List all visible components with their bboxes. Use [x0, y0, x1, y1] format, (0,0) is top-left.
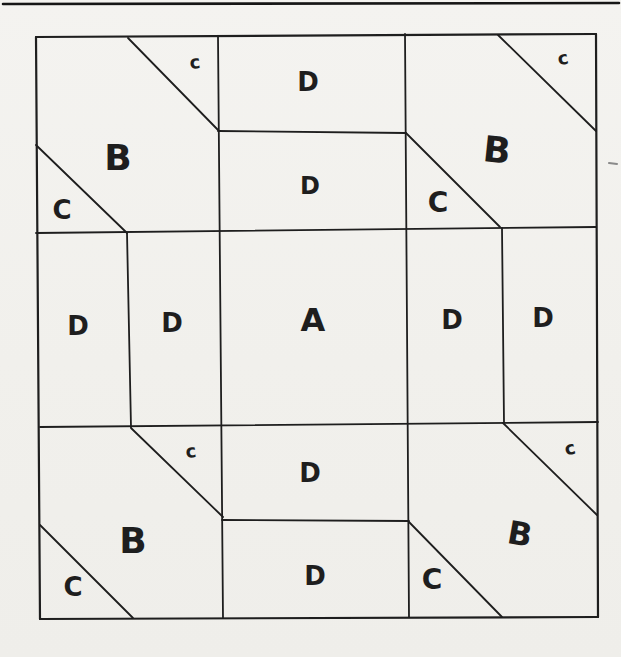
region-label-D: D [67, 311, 89, 341]
vertical-short-midleft [127, 233, 131, 427]
horizontal-top-center [218, 131, 406, 133]
tiling-diagram: cDcBDBCCDDADDcDcBBDCC [0, 0, 621, 657]
diagonal-bottomleft-small-c [131, 428, 223, 517]
outer-border-left [36, 37, 40, 619]
horizontal-bottom-center [222, 520, 409, 521]
region-label-D: D [299, 458, 321, 488]
region-label-D: D [304, 561, 326, 591]
region-label-C: C [63, 572, 82, 602]
region-label-B: B [119, 520, 146, 561]
region-label-D: D [441, 305, 463, 335]
diagonal-topright-small-c [498, 35, 596, 131]
diagonal-topleft-small-c [128, 38, 219, 131]
vertical-short-midright [502, 228, 504, 422]
region-label-c: c [185, 440, 198, 462]
region-label-D: D [532, 303, 554, 333]
vertical-divider-right [405, 34, 409, 617]
region-label-D: D [297, 67, 319, 97]
outer-border-bottom [40, 617, 598, 619]
region-label-C: C [52, 195, 71, 225]
page-header-rule [3, 3, 619, 4]
stray-pen-mark [609, 163, 617, 164]
outer-border-right [596, 34, 598, 617]
horizontal-upper-band [36, 227, 596, 233]
scanned-page: cDcBDBCCDDADDcDcBBDCC [0, 0, 621, 657]
region-label-B: B [104, 137, 131, 178]
region-label-A: A [301, 301, 326, 339]
outer-border-top [36, 34, 596, 37]
region-label-C: C [422, 563, 443, 596]
region-label-B: B [505, 513, 536, 555]
horizontal-lower-band [40, 422, 598, 427]
region-label-D: D [300, 172, 320, 200]
region-label-B: B [481, 128, 513, 172]
region-label-c: c [563, 437, 578, 460]
diagonal-bottomright-small-c [503, 423, 597, 515]
region-label-c: c [556, 47, 570, 70]
region-label-c: c [189, 51, 202, 73]
region-label-D: D [161, 308, 183, 338]
region-label-C: C [428, 186, 449, 219]
vertical-divider-left [218, 37, 223, 618]
